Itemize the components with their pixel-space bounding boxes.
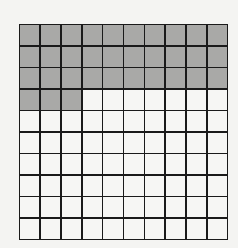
shaded-cell [166,68,185,88]
unshaded-cell [187,111,206,131]
shaded-cell [83,68,102,88]
unshaded-cell [145,111,164,131]
unshaded-cell [166,176,185,196]
unshaded-cell [41,133,60,153]
unshaded-cell [62,111,81,131]
unshaded-cell [41,219,60,239]
unshaded-cell [166,133,185,153]
unshaded-cell [187,90,206,110]
shaded-cell [62,68,81,88]
unshaded-cell [208,197,227,217]
unshaded-cell [83,154,102,174]
unshaded-cell [145,133,164,153]
shaded-cell [208,47,227,67]
unshaded-cell [187,133,206,153]
shaded-cell [20,47,39,67]
shaded-cell [103,47,122,67]
hundred-grid [19,24,228,240]
unshaded-cell [187,176,206,196]
shaded-cell [62,25,81,45]
unshaded-cell [208,176,227,196]
unshaded-cell [103,111,122,131]
unshaded-cell [145,219,164,239]
unshaded-cell [124,154,143,174]
unshaded-cell [83,90,102,110]
unshaded-cell [124,197,143,217]
shaded-cell [41,25,60,45]
unshaded-cell [103,197,122,217]
shaded-cell [166,47,185,67]
shaded-cell [20,90,39,110]
shaded-cell [187,25,206,45]
unshaded-cell [166,219,185,239]
shaded-cell [41,68,60,88]
unshaded-cell [187,219,206,239]
unshaded-cell [83,197,102,217]
unshaded-cell [103,176,122,196]
shaded-cell [124,68,143,88]
unshaded-cell [145,154,164,174]
shaded-cell [83,25,102,45]
shaded-cell [41,90,60,110]
unshaded-cell [124,133,143,153]
unshaded-cell [83,219,102,239]
shaded-cell [187,47,206,67]
shaded-cell [62,90,81,110]
unshaded-cell [20,219,39,239]
unshaded-cell [41,111,60,131]
shaded-cell [41,47,60,67]
unshaded-cell [20,154,39,174]
unshaded-cell [41,176,60,196]
unshaded-cell [145,176,164,196]
unshaded-cell [62,154,81,174]
shaded-cell [124,47,143,67]
unshaded-cell [20,197,39,217]
unshaded-cell [166,154,185,174]
unshaded-cell [20,176,39,196]
shaded-cell [208,25,227,45]
unshaded-cell [166,90,185,110]
shaded-cell [83,47,102,67]
unshaded-cell [208,111,227,131]
unshaded-cell [145,90,164,110]
shaded-cell [187,68,206,88]
unshaded-cell [208,90,227,110]
shaded-cell [145,25,164,45]
unshaded-cell [41,154,60,174]
unshaded-cell [124,176,143,196]
shaded-cell [103,25,122,45]
unshaded-cell [187,197,206,217]
unshaded-cell [83,111,102,131]
unshaded-cell [124,90,143,110]
unshaded-cell [187,154,206,174]
shaded-cell [166,25,185,45]
shaded-cell [208,68,227,88]
unshaded-cell [166,197,185,217]
shaded-cell [20,68,39,88]
unshaded-cell [103,133,122,153]
unshaded-cell [124,111,143,131]
shaded-cell [103,68,122,88]
unshaded-cell [208,154,227,174]
unshaded-cell [103,219,122,239]
unshaded-cell [62,133,81,153]
unshaded-cell [166,111,185,131]
shaded-cell [145,68,164,88]
shaded-cell [62,47,81,67]
unshaded-cell [208,219,227,239]
shaded-cell [145,47,164,67]
unshaded-cell [62,219,81,239]
unshaded-cell [41,197,60,217]
unshaded-cell [20,111,39,131]
shaded-cell [20,25,39,45]
unshaded-cell [20,133,39,153]
unshaded-cell [208,133,227,153]
unshaded-cell [62,197,81,217]
unshaded-cell [103,154,122,174]
unshaded-cell [145,197,164,217]
unshaded-cell [124,219,143,239]
unshaded-cell [83,176,102,196]
shaded-cell [124,25,143,45]
unshaded-cell [83,133,102,153]
unshaded-cell [103,90,122,110]
